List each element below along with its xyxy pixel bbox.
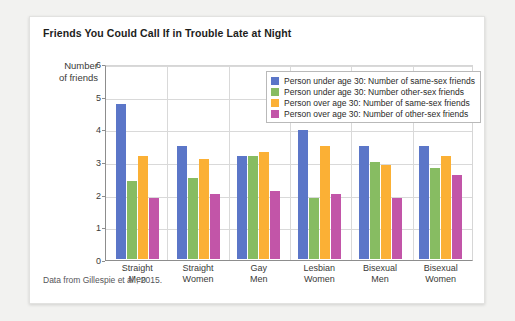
plot-wrapper: StraightMenStraightWomenGayMenLesbianWom… <box>105 65 473 261</box>
y-axis-tick-label: 5 <box>91 93 101 103</box>
y-axis-tick-mark <box>102 196 105 197</box>
legend-item: Person over age 30: Number of other-sex … <box>271 108 475 119</box>
bar-group: StraightMen <box>107 67 168 259</box>
y-axis-tick-label: 0 <box>91 256 101 266</box>
y-axis-tick-label: 4 <box>91 125 101 135</box>
legend-swatch <box>271 99 279 107</box>
bar <box>188 178 198 259</box>
bar <box>116 104 126 259</box>
page-title: Friends You Could Call If in Trouble Lat… <box>43 27 291 39</box>
y-axis-tick-label: 1 <box>91 223 101 233</box>
bar-group: StraightWomen <box>168 67 229 259</box>
x-axis-tick-label-line: Gay <box>250 263 268 274</box>
y-axis-tick-label: 6 <box>91 60 101 70</box>
x-axis-tick-label: GayMen <box>250 263 268 285</box>
bar <box>177 146 187 259</box>
y-axis-title: Number of friends <box>36 60 98 83</box>
legend-swatch <box>271 110 279 118</box>
y-axis-tick-mark <box>102 98 105 99</box>
bar <box>309 198 319 259</box>
y-axis-title-line-2: of friends <box>36 72 98 84</box>
chart-card: Friends You Could Call If in Trouble Lat… <box>29 16 485 304</box>
x-axis-tick-label-line: Women <box>304 274 336 285</box>
bar <box>392 198 402 259</box>
bar <box>331 194 341 259</box>
x-axis-tick-label-line: Bisexual <box>363 263 397 274</box>
bar <box>138 156 148 259</box>
bar <box>381 165 391 259</box>
bar <box>199 159 209 259</box>
bar <box>452 175 462 259</box>
bar <box>127 181 137 259</box>
y-axis-tick-mark <box>102 65 105 66</box>
legend-item: Person under age 30: Number of same-sex … <box>271 75 475 86</box>
y-axis-tick-mark <box>102 261 105 262</box>
legend-item: Person over age 30: Number of same-sex f… <box>271 97 475 108</box>
legend-swatch <box>271 77 279 85</box>
legend-swatch <box>271 88 279 96</box>
x-axis-tick-label: StraightWomen <box>182 263 213 285</box>
bar <box>270 191 280 259</box>
y-axis-title-line-1: Number <box>36 60 98 72</box>
legend-label: Person over age 30: Number of other-sex … <box>284 109 468 119</box>
source-note: Data from Gillespie et al., 2015. <box>43 275 162 285</box>
bar <box>370 162 380 259</box>
y-axis-tick-mark <box>102 130 105 131</box>
x-axis-tick-label-line: Bisexual <box>424 263 458 274</box>
bar <box>430 168 440 259</box>
legend-item: Person under age 30: Number other-sex fr… <box>271 86 475 97</box>
bar <box>298 130 308 259</box>
y-axis-tick-label: 3 <box>91 158 101 168</box>
bar <box>210 194 220 259</box>
x-axis-tick-label-line: Lesbian <box>304 263 336 274</box>
bar <box>259 152 269 259</box>
bar <box>441 156 451 259</box>
x-axis-tick-label: BisexualMen <box>363 263 397 285</box>
y-axis-tick-mark <box>102 163 105 164</box>
x-axis-tick-label: BisexualWomen <box>424 263 458 285</box>
y-axis-tick-mark <box>102 228 105 229</box>
bar <box>419 146 429 259</box>
chart-legend: Person under age 30: Number of same-sex … <box>266 71 481 123</box>
legend-label: Person over age 30: Number of same-sex f… <box>284 98 470 108</box>
bar <box>248 156 258 259</box>
x-axis-tick-label-line: Women <box>182 274 213 285</box>
x-axis-tick-label-line: Straight <box>122 263 153 274</box>
bar <box>320 146 330 259</box>
bar <box>359 146 369 259</box>
x-axis-tick-label-line: Men <box>363 274 397 285</box>
bar <box>237 156 247 259</box>
x-axis-tick-label-line: Men <box>250 274 268 285</box>
x-axis-tick-label-line: Straight <box>182 263 213 274</box>
x-axis-tick-label-line: Women <box>424 274 458 285</box>
y-axis-tick-label: 2 <box>91 191 101 201</box>
bar <box>149 198 159 259</box>
chart-screenshot: Friends You Could Call If in Trouble Lat… <box>0 0 515 321</box>
x-axis-tick-label: LesbianWomen <box>304 263 336 285</box>
legend-label: Person under age 30: Number other-sex fr… <box>284 87 464 97</box>
legend-label: Person under age 30: Number of same-sex … <box>284 76 475 86</box>
